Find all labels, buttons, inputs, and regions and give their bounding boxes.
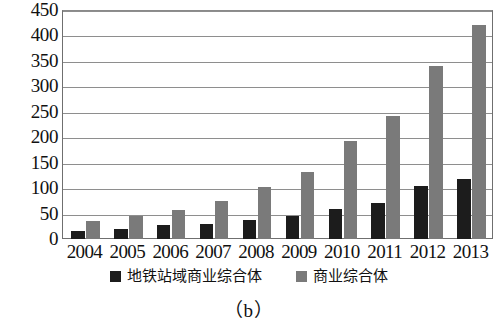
bar-2011-series-1 xyxy=(371,203,385,239)
bar-group-2013 xyxy=(449,11,492,239)
figure-caption: （b） xyxy=(0,299,497,323)
bar-group-2004 xyxy=(63,11,106,239)
bar-2004-series-2 xyxy=(86,221,100,239)
figure-container: 050100150200250300350400450 200420052006… xyxy=(0,0,497,329)
bar-2009-series-1 xyxy=(286,216,300,239)
bar-2009-series-2 xyxy=(301,172,315,239)
legend-swatch-icon-1 xyxy=(110,271,121,282)
bar-2008-series-2 xyxy=(258,187,272,239)
x-tick-label-2004: 2004 xyxy=(63,241,106,263)
x-tick-label-2011: 2011 xyxy=(363,241,406,263)
x-tick-label-2009: 2009 xyxy=(278,241,321,263)
bar-2006-series-1 xyxy=(157,225,171,239)
bar-2012-series-2 xyxy=(429,66,443,239)
y-tick-label-100: 100 xyxy=(0,178,58,197)
bar-2007-series-2 xyxy=(215,201,229,239)
bar-2005-series-2 xyxy=(129,216,143,239)
x-axis: 2004200520062007200820092010201120122013 xyxy=(63,241,492,265)
x-tick-label-2008: 2008 xyxy=(235,241,278,263)
x-tick-label-2005: 2005 xyxy=(106,241,149,263)
bar-group-2009 xyxy=(278,11,321,239)
y-axis: 050100150200250300350400450 xyxy=(0,10,58,239)
bar-2005-series-1 xyxy=(114,229,128,239)
bar-2013-series-1 xyxy=(457,179,471,239)
bar-2008-series-1 xyxy=(243,220,257,239)
legend-item-1: 地铁站域商业综合体 xyxy=(110,268,262,284)
y-tick-label-350: 350 xyxy=(0,51,58,70)
bar-group-2008 xyxy=(235,11,278,239)
chart-area: 050100150200250300350400450 200420052006… xyxy=(0,2,497,260)
x-tick-label-2010: 2010 xyxy=(320,241,363,263)
x-tick-label-2007: 2007 xyxy=(192,241,235,263)
x-tick-label-2012: 2012 xyxy=(406,241,449,263)
legend-label-1: 地铁站域商业综合体 xyxy=(127,268,262,284)
y-tick-label-400: 400 xyxy=(0,25,58,44)
bar-group-2010 xyxy=(320,11,363,239)
bar-group-2007 xyxy=(192,11,235,239)
legend-swatch-icon-2 xyxy=(296,271,307,282)
bar-2010-series-1 xyxy=(329,209,343,239)
bars-layer xyxy=(63,11,492,239)
chart-legend: 地铁站域商业综合体商业综合体 xyxy=(0,268,497,284)
y-tick-label-250: 250 xyxy=(0,102,58,121)
bar-2012-series-1 xyxy=(414,186,428,239)
bar-2006-series-2 xyxy=(172,210,186,239)
bar-group-2012 xyxy=(406,11,449,239)
y-tick-label-200: 200 xyxy=(0,127,58,146)
bar-2010-series-2 xyxy=(344,141,358,239)
bar-group-2005 xyxy=(106,11,149,239)
y-tick-label-0: 0 xyxy=(0,229,58,248)
legend-label-2: 商业综合体 xyxy=(313,268,388,284)
y-tick-label-300: 300 xyxy=(0,76,58,95)
bar-2004-series-1 xyxy=(71,231,85,239)
bar-2007-series-1 xyxy=(200,224,214,239)
legend-item-2: 商业综合体 xyxy=(296,268,388,284)
bar-2013-series-2 xyxy=(472,25,486,239)
y-tick-label-50: 50 xyxy=(0,204,58,223)
bar-2011-series-2 xyxy=(386,116,400,239)
x-tick-label-2013: 2013 xyxy=(449,241,492,263)
y-tick-label-450: 450 xyxy=(0,0,58,19)
bar-group-2011 xyxy=(363,11,406,239)
x-tick-label-2006: 2006 xyxy=(149,241,192,263)
bar-group-2006 xyxy=(149,11,192,239)
y-tick-label-150: 150 xyxy=(0,153,58,172)
